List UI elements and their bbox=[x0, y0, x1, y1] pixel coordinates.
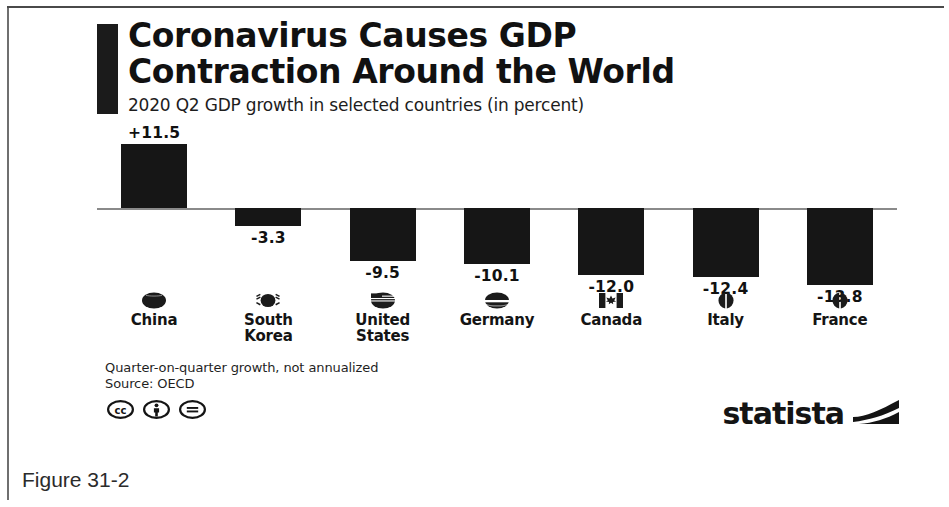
category-axis-item: South Korea bbox=[211, 291, 325, 344]
figure-caption: Figure 31-2 bbox=[22, 468, 129, 492]
flag-united-states-icon bbox=[326, 291, 440, 310]
statista-infographic: Coronavirus Causes GDP Contraction Aroun… bbox=[9, 8, 944, 445]
bar-value-label: -10.1 bbox=[464, 267, 530, 285]
flag-south-korea-icon bbox=[211, 291, 325, 310]
category-label: Canada bbox=[554, 312, 668, 328]
flag-germany-icon bbox=[440, 291, 554, 310]
cc-nd-icon bbox=[179, 400, 206, 423]
document-page: Coronavirus Causes GDP Contraction Aroun… bbox=[0, 0, 949, 507]
category-axis-item: France bbox=[783, 291, 897, 328]
svg-text:cc: cc bbox=[115, 405, 127, 416]
creative-commons-license: cc bbox=[107, 400, 206, 423]
page-subtitle: 2020 Q2 GDP growth in selected countries… bbox=[128, 95, 918, 115]
bar-value-label: +11.5 bbox=[121, 124, 187, 142]
bar bbox=[464, 208, 530, 264]
footnote-method: Quarter-on-quarter growth, not annualize… bbox=[105, 360, 905, 376]
category-axis-item: United States bbox=[326, 291, 440, 344]
category-axis-item: Canada bbox=[554, 291, 668, 328]
page-title: Coronavirus Causes GDP Contraction Aroun… bbox=[128, 18, 918, 90]
bar-value-label: -3.3 bbox=[235, 229, 301, 247]
flag-china-icon bbox=[97, 291, 211, 310]
category-label: United States bbox=[326, 312, 440, 344]
category-label: France bbox=[783, 312, 897, 328]
statista-logo: statista bbox=[722, 396, 899, 431]
cc-by-icon bbox=[143, 400, 170, 423]
statista-wordmark: statista bbox=[722, 396, 844, 431]
category-axis-item: Germany bbox=[440, 291, 554, 328]
bar bbox=[578, 208, 644, 275]
footnote-source: Source: OECD bbox=[105, 376, 905, 392]
category-label: South Korea bbox=[211, 312, 325, 344]
flag-france-icon bbox=[783, 291, 897, 310]
bar bbox=[807, 208, 873, 285]
flag-canada-icon bbox=[554, 291, 668, 310]
bar-value-label: -9.5 bbox=[350, 264, 416, 282]
category-label: Germany bbox=[440, 312, 554, 328]
statista-swoosh-icon bbox=[853, 398, 899, 429]
category-label: Italy bbox=[668, 312, 782, 328]
category-axis: ChinaSouth KoreaUnited StatesGermanyCana… bbox=[97, 291, 897, 353]
bar bbox=[693, 208, 759, 277]
bar bbox=[350, 208, 416, 261]
category-axis-item: Italy bbox=[668, 291, 782, 328]
cc-icon: cc bbox=[107, 400, 134, 423]
flag-italy-icon bbox=[668, 291, 782, 310]
category-label: China bbox=[97, 312, 211, 328]
bar bbox=[235, 208, 301, 226]
chart-footnotes: Quarter-on-quarter growth, not annualize… bbox=[105, 360, 905, 392]
category-axis-item: China bbox=[97, 291, 211, 328]
title-accent-bar bbox=[97, 24, 118, 114]
header: Coronavirus Causes GDP Contraction Aroun… bbox=[128, 18, 918, 115]
bar bbox=[121, 144, 187, 208]
